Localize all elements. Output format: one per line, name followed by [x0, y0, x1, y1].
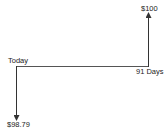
- outflow-amount-label: $98.79: [7, 121, 30, 129]
- start-time-label: Today: [8, 57, 28, 65]
- inflow-amount-label: $100: [141, 5, 158, 13]
- end-time-label: 91 Days: [136, 68, 164, 76]
